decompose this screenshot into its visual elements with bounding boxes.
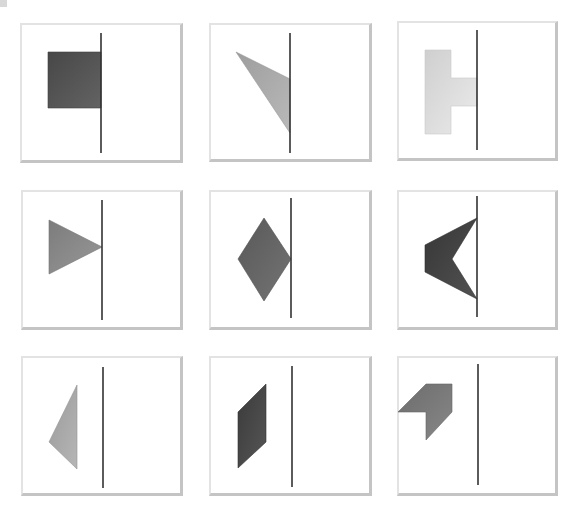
- panel-2: [209, 23, 372, 162]
- panel-4: [21, 190, 183, 330]
- panel-9: [397, 356, 558, 496]
- corner-marker: [0, 0, 7, 7]
- panel-3: [397, 21, 558, 161]
- panel-5: [209, 190, 372, 330]
- panel-6: [397, 190, 558, 330]
- panel-1: [20, 23, 183, 163]
- panel-8: [209, 356, 372, 496]
- panel-7: [21, 356, 183, 496]
